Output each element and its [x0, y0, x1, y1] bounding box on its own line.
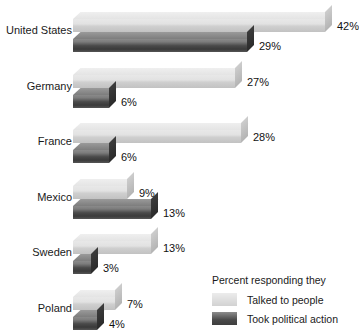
- bar-end-cap: [109, 136, 116, 163]
- bar-front-face: [73, 206, 151, 219]
- bar-value-label: 29%: [259, 40, 281, 52]
- bar-value-label: 13%: [163, 207, 185, 219]
- bar-top-face: [73, 123, 249, 130]
- bar-top-face: [73, 12, 333, 19]
- bar-top-face: [73, 68, 243, 75]
- legend-item-talked-to-people: Talked to people: [212, 293, 358, 306]
- bar-end-cap: [235, 61, 242, 88]
- bar-end-cap: [151, 227, 158, 254]
- bar-value-label: 28%: [253, 131, 275, 143]
- legend-swatch-light: [212, 293, 237, 306]
- bar-value-label: 13%: [163, 242, 185, 254]
- bar-front-face: [73, 186, 127, 199]
- bar-value-label: 3%: [103, 262, 119, 274]
- bar-end-cap: [127, 172, 134, 199]
- category-label: United States: [0, 24, 72, 36]
- bar-end-cap: [91, 247, 98, 274]
- bar-end-cap: [241, 116, 248, 143]
- bar-front-face: [73, 317, 97, 330]
- bar-top-face: [73, 234, 159, 241]
- chart-legend: Percent responding they Talked to people…: [212, 274, 358, 331]
- category-label: Sweden: [0, 246, 72, 258]
- bar-value-label: 7%: [127, 298, 143, 310]
- bar-front-face: [73, 261, 91, 274]
- bar-end-cap: [247, 25, 254, 52]
- bar-front-face: [73, 19, 325, 32]
- bar-value-label: 6%: [121, 96, 137, 108]
- bar-front-face: [73, 297, 115, 310]
- bar-top-face: [73, 199, 159, 206]
- bar-front-face: [73, 39, 247, 52]
- bar-value-label: 42%: [337, 20, 359, 32]
- legend-item-took-political-action: Took political action: [212, 312, 358, 325]
- legend-swatch-dark: [212, 312, 237, 325]
- bar-top-face: [73, 179, 135, 186]
- bar-value-label: 4%: [109, 318, 125, 330]
- bar-value-label: 27%: [247, 76, 269, 88]
- bar-front-face: [73, 241, 151, 254]
- bar-end-cap: [115, 283, 122, 310]
- category-label: Mexico: [0, 191, 72, 203]
- bar-front-face: [73, 75, 235, 88]
- bar-top-face: [73, 32, 255, 39]
- bar-value-label: 6%: [121, 151, 137, 163]
- legend-title: Percent responding they: [212, 274, 358, 286]
- legend-label-took-political-action: Took political action: [247, 313, 338, 325]
- bar-front-face: [73, 150, 109, 163]
- category-label: Germany: [0, 80, 72, 92]
- bar-end-cap: [325, 5, 332, 32]
- legend-label-talked-to-people: Talked to people: [247, 294, 323, 306]
- bar-front-face: [73, 130, 241, 143]
- category-label: Poland: [0, 302, 72, 314]
- category-label: France: [0, 135, 72, 147]
- bar-front-face: [73, 95, 109, 108]
